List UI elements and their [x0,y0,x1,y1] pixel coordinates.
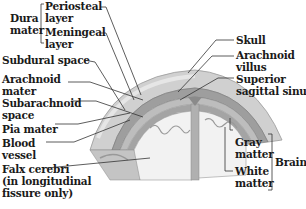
label-meningeal-layer: Meningeal layer [45,26,106,50]
label-arachnoid-villus-line1: Arachnoid [236,49,295,61]
label-dura-mater-line1: Dura [10,12,44,24]
label-blood-vessel-line1: Blood [2,137,36,149]
label-meningeal-layer-line2: layer [45,38,106,50]
label-superior-sagittal-sinus-line1: Superior [236,73,306,85]
label-superior-sagittal-sinus-line2: sagittal sinus [236,85,306,97]
label-arachnoid-villus: Arachnoid villus [236,49,295,73]
label-blood-vessel-line2: vessel [2,149,36,161]
label-arachnoid-villus-line2: villus [236,61,295,73]
label-skull-line1: Skull [236,34,265,46]
label-subarachnoid-space: Subarachnoid space [2,97,81,121]
label-meningeal-layer-line1: Meningeal [45,26,106,38]
label-white-matter-line2: matter [235,177,274,189]
label-pia-mater-line1: Pia mater [2,123,58,135]
label-subdural-space-line1: Subdural space [2,54,90,66]
label-gray-matter: Gray matter [235,136,274,160]
label-falx-cerebri-line1: Falx cerebri [2,163,91,175]
label-falx-cerebri-line3: fissure only) [2,187,91,199]
label-white-matter: White matter [235,165,274,189]
label-skull: Skull [236,34,265,46]
label-subdural-space: Subdural space [2,54,90,66]
label-superior-sagittal-sinus: Superior sagittal sinus [236,73,306,97]
label-arachnoid-mater-line2: mater [2,85,61,97]
falx-cerebri-shape [191,104,199,180]
label-blood-vessel: Blood vessel [2,137,36,161]
label-pia-mater: Pia mater [2,123,58,135]
label-gray-matter-line2: matter [235,148,274,160]
label-arachnoid-mater: Arachnoid mater [2,73,61,97]
label-white-matter-line1: White [235,165,274,177]
label-arachnoid-mater-line1: Arachnoid [2,73,61,85]
label-falx-cerebri-line2: (in longitudinal [2,175,91,187]
label-subarachnoid-space-line1: Subarachnoid [2,97,81,109]
label-periosteal-layer: Periosteal layer [45,0,102,24]
label-periosteal-layer-line1: Periosteal [45,0,102,12]
label-falx-cerebri: Falx cerebri (in longitudinal fissure on… [2,163,91,199]
label-gray-matter-line1: Gray [235,136,274,148]
label-brain-line1: Brain [275,156,306,168]
label-periosteal-layer-line2: layer [45,12,102,24]
label-dura-mater-line2: mater [10,24,44,36]
label-subarachnoid-space-line2: space [2,109,81,121]
label-brain: Brain [275,156,306,168]
label-dura-mater: Dura mater [10,12,44,36]
